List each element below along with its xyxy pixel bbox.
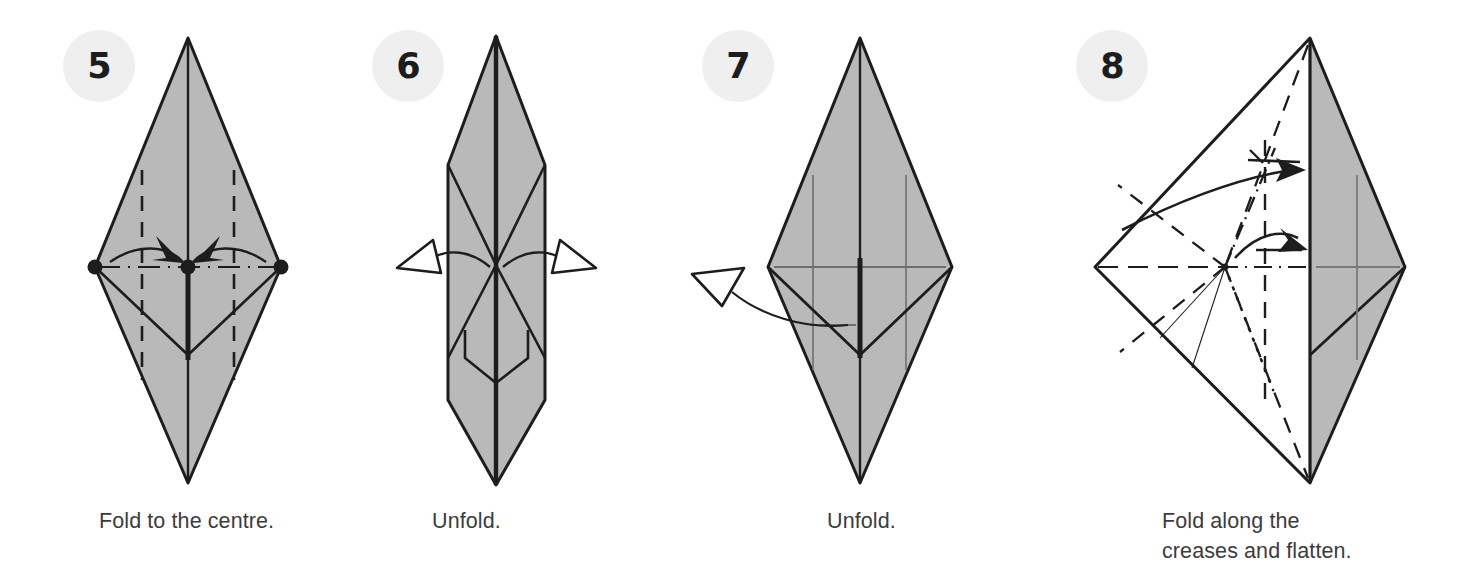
- step-badge-6: 6: [372, 30, 444, 102]
- unfold-arrow-left-head: [397, 240, 441, 273]
- step-badge-5: 5: [63, 30, 135, 102]
- step-caption-8: Fold along the creases and flatten.: [1162, 506, 1352, 566]
- step-badge-8-wrap: 8: [1076, 30, 1148, 102]
- step-badge-5-wrap: 5: [63, 30, 135, 102]
- step-panel-8: 8 Fold along the creases and flatten.: [1060, 0, 1471, 587]
- step-badge-7-wrap: 7: [702, 30, 774, 102]
- vertex-dot-left: [88, 260, 103, 275]
- origami-figure-5: [0, 0, 370, 500]
- step-diagram-5: [0, 0, 370, 500]
- origami-instruction-sheet: 5 Fold to the centre.: [0, 0, 1471, 587]
- step-caption-5: Fold to the centre.: [99, 506, 274, 536]
- unfold-arrow-head: [692, 268, 744, 306]
- step-badge-7: 7: [702, 30, 774, 102]
- vertex-dot-right: [274, 260, 289, 275]
- paper-left-half-white: [1095, 38, 1310, 483]
- crease-intersection-node: [1222, 264, 1229, 271]
- step-panel-5: 5 Fold to the centre.: [0, 0, 370, 587]
- step-badge-8: 8: [1076, 30, 1148, 102]
- step-badge-6-wrap: 6: [372, 30, 444, 102]
- vertex-dot-centre: [181, 260, 196, 275]
- unfold-arrow-right-head: [552, 240, 596, 273]
- step-caption-7: Unfold.: [827, 506, 896, 536]
- step-panel-6: 6 Unfold.: [370, 0, 670, 587]
- step-caption-6: Unfold.: [432, 506, 501, 536]
- step-panel-7: 7 Unfold.: [670, 0, 1060, 587]
